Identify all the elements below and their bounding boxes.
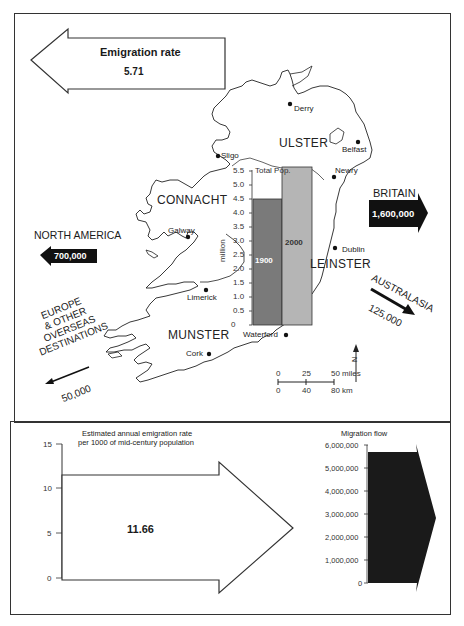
ytick-0.5: 0.5 bbox=[233, 306, 244, 315]
pop-chart-title: Total Pop. bbox=[255, 166, 291, 175]
emigration-rate-arrow bbox=[31, 29, 225, 93]
flow-tick-4m: 4,000,000 bbox=[325, 487, 358, 496]
bar-label-1900: 1900 bbox=[255, 256, 273, 265]
flow-tick-6m: 6,000,000 bbox=[325, 441, 358, 450]
region-connacht: CONNACHT bbox=[157, 193, 227, 207]
region-ulster: ULSTER bbox=[279, 136, 328, 150]
scale-miles-25: 25 bbox=[302, 369, 311, 378]
north-label: N bbox=[351, 357, 358, 362]
rate-title-line1: Estimated annual emigration rate bbox=[82, 429, 192, 438]
flow-tick-2m: 2,000,000 bbox=[325, 533, 358, 542]
scale-km-0: 0 bbox=[276, 386, 280, 395]
rate-tick-0: 0 bbox=[47, 574, 51, 583]
ytick-0: 0 bbox=[231, 320, 235, 329]
sligo-dot bbox=[216, 154, 220, 158]
city-derry: Derry bbox=[294, 104, 314, 113]
scale-miles-50: 50 miles bbox=[331, 369, 361, 378]
ytick-1.5: 1.5 bbox=[233, 278, 244, 287]
region-munster: MUNSTER bbox=[168, 328, 229, 342]
city-cork: Cork bbox=[186, 349, 203, 358]
ytick-4.0: 4.0 bbox=[233, 208, 244, 217]
emigration-rate-title: Emigration rate bbox=[100, 46, 181, 58]
scale-km-80: 80 km bbox=[331, 386, 353, 395]
flow-tick-1m: 1,000,000 bbox=[325, 556, 358, 565]
derry-dot bbox=[288, 102, 292, 106]
ytick-2.0: 2.0 bbox=[233, 264, 244, 273]
ytick-1.0: 1.0 bbox=[233, 292, 244, 301]
europe-arrowhead bbox=[45, 378, 54, 384]
city-limerick: Limerick bbox=[187, 293, 217, 302]
galway-dot bbox=[186, 235, 190, 239]
newry-dot bbox=[332, 175, 336, 179]
limerick-dot bbox=[204, 288, 208, 292]
britain-value: 1,600,000 bbox=[372, 208, 414, 219]
rate-arrow bbox=[62, 462, 293, 593]
flow-tick-3m: 3,000,000 bbox=[325, 510, 358, 519]
dublin-dot bbox=[333, 246, 337, 250]
flow-title: Migration flow bbox=[341, 429, 387, 438]
cork-dot bbox=[207, 352, 211, 356]
city-newry: Newry bbox=[335, 166, 358, 175]
scale-miles-0: 0 bbox=[276, 369, 280, 378]
ytick-3.5: 3.5 bbox=[233, 222, 244, 231]
rate-title-line2: per 1000 of mid-century population bbox=[78, 438, 194, 447]
ytick-5.5: 5.5 bbox=[233, 166, 244, 175]
region-leinster: LEINSTER bbox=[310, 257, 371, 271]
north-arrowhead bbox=[353, 344, 359, 352]
north-america-value: 700,000 bbox=[54, 251, 87, 261]
city-waterford: Waterford bbox=[243, 330, 278, 339]
emigration-rate-value: 5.71 bbox=[124, 66, 143, 77]
city-dublin: Dublin bbox=[342, 245, 365, 254]
flow-tick-5m: 5,000,000 bbox=[325, 464, 358, 473]
city-belfast: Belfast bbox=[342, 145, 366, 154]
scale-km-40: 40 bbox=[302, 386, 311, 395]
bar-label-2000: 2000 bbox=[285, 238, 303, 247]
ytick-5.0: 5.0 bbox=[233, 180, 244, 189]
rate-tick-15: 15 bbox=[43, 440, 52, 449]
rate-value: 11.66 bbox=[127, 523, 154, 535]
rate-tick-10: 10 bbox=[43, 484, 52, 493]
flow-tick-0: 0 bbox=[358, 579, 362, 588]
north-america-label: NORTH AMERICA bbox=[34, 229, 121, 241]
britain-label: BRITAIN bbox=[373, 187, 416, 199]
flow-arrow bbox=[368, 444, 436, 592]
belfast-dot bbox=[356, 140, 360, 144]
pop-ylabel: million bbox=[218, 239, 227, 262]
city-galway: Galway bbox=[168, 226, 195, 235]
ytick-2.5: 2.5 bbox=[233, 250, 244, 259]
ytick-4.5: 4.5 bbox=[233, 194, 244, 203]
waterford-dot bbox=[284, 333, 288, 337]
city-sligo: Sligo bbox=[221, 151, 239, 160]
rate-tick-5: 5 bbox=[47, 529, 51, 538]
ytick-3.0: 3.0 bbox=[233, 236, 244, 245]
